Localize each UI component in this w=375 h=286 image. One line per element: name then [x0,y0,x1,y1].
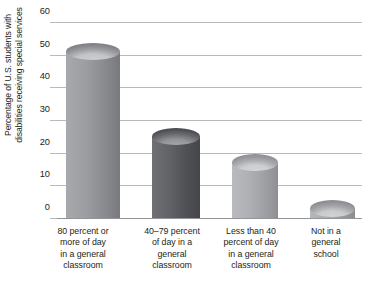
y-tick-label-50: 50 [28,40,50,49]
y-tick-label-30: 30 [28,105,50,114]
x-label-line: more of day [33,237,133,248]
bar-cap-ellipse [310,200,355,217]
x-axis-label-not-in-general-school: Not in a general school [289,226,363,260]
bar-cap-ellipse [152,128,200,145]
x-label-line: Less than 40 [203,226,299,237]
y-tick-label-40: 40 [28,72,50,81]
y-axis-title-line-2: disabilities receiving special services [14,7,25,143]
x-label-line: school [289,249,363,260]
y-tick-mark-20 [50,153,57,154]
bar-chart: Percentage of U.S. students with disabil… [0,0,375,286]
x-label-line: percent of day [203,237,299,248]
y-tick-mark-60 [50,22,57,23]
bar-body [152,136,200,218]
x-label-line: classroom [203,260,299,271]
gridline-60 [57,22,362,23]
x-axis-label-80-percent-or-more: 80 percent or more of day in a general c… [33,226,133,272]
plot-area [57,22,362,218]
x-label-line: classroom [33,260,133,271]
x-label-line: in a general [203,249,299,260]
y-tick-mark-30 [50,120,57,121]
bar-less-than-40-percent[interactable] [232,163,278,219]
y-tick-mark-10 [50,185,57,186]
bar-40-79-percent[interactable] [152,136,200,218]
x-label-line: in a general [33,249,133,260]
x-label-line: 80 percent or [33,226,133,237]
y-tick-label-0: 0 [28,203,50,212]
bar-cap-ellipse [66,43,120,60]
x-axis-label-less-than-40-percent: Less than 40 percent of day in a general… [203,226,299,272]
x-label-line: general [289,237,363,248]
y-tick-label-60: 60 [28,7,50,16]
y-tick-label-20: 20 [28,138,50,147]
bar-cap-ellipse [232,154,278,171]
bar-body [66,51,120,218]
y-tick-mark-0 [50,218,57,219]
y-tick-mark-40 [50,87,57,88]
y-axis-title-line-1: Percentage of U.S. students with [3,7,14,143]
y-axis-title: Percentage of U.S. students with disabil… [0,0,31,175]
bar-not-in-general-school[interactable] [310,208,355,218]
x-label-line: Not in a [289,226,363,237]
axis-baseline [57,218,362,219]
y-tick-label-10: 10 [28,170,50,179]
bar-80-percent-or-more[interactable] [66,51,120,218]
y-tick-mark-50 [50,55,57,56]
